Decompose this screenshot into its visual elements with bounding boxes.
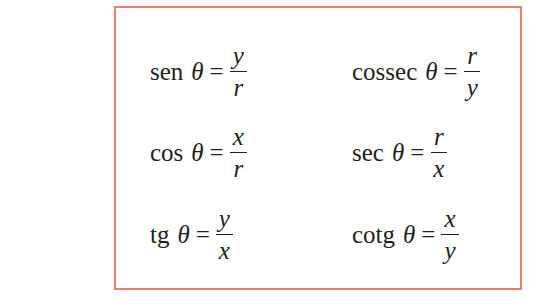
numerator: r bbox=[431, 124, 447, 153]
equals-sign: = bbox=[410, 140, 424, 165]
numerator: x bbox=[230, 124, 247, 153]
denominator: y bbox=[464, 72, 481, 100]
formula-cossec: cossec θ = r y bbox=[352, 43, 481, 100]
function-name: cos bbox=[150, 140, 183, 165]
function-name: tg bbox=[150, 222, 169, 247]
equals-sign: = bbox=[210, 59, 224, 84]
theta-symbol: θ bbox=[425, 59, 437, 84]
formula-sec: sec θ = r x bbox=[352, 124, 447, 181]
formula-cos: cos θ = x r bbox=[150, 124, 247, 181]
equals-sign: = bbox=[421, 222, 435, 247]
fraction: r x bbox=[430, 124, 447, 181]
theta-symbol: θ bbox=[392, 140, 404, 165]
numerator: r bbox=[464, 43, 480, 72]
function-name: cossec bbox=[352, 59, 417, 84]
denominator: y bbox=[441, 235, 458, 263]
function-name: sen bbox=[150, 59, 183, 84]
denominator: r bbox=[230, 72, 246, 100]
fraction: x r bbox=[230, 124, 247, 181]
numerator: y bbox=[216, 206, 233, 235]
theta-symbol: θ bbox=[403, 222, 415, 247]
theta-symbol: θ bbox=[191, 59, 203, 84]
function-name: sec bbox=[352, 140, 384, 165]
numerator: y bbox=[230, 43, 247, 72]
equals-sign: = bbox=[444, 59, 458, 84]
fraction: x y bbox=[441, 206, 458, 263]
denominator: x bbox=[216, 235, 233, 263]
equals-sign: = bbox=[196, 222, 210, 247]
formula-sen: sen θ = y r bbox=[150, 43, 247, 100]
fraction: y x bbox=[216, 206, 233, 263]
numerator: x bbox=[441, 206, 458, 235]
function-name: cotg bbox=[352, 222, 395, 247]
formula-cotg: cotg θ = x y bbox=[352, 206, 459, 263]
formula-tg: tg θ = y x bbox=[150, 206, 233, 263]
denominator: r bbox=[230, 153, 246, 181]
denominator: x bbox=[430, 153, 447, 181]
theta-symbol: θ bbox=[177, 222, 189, 247]
equals-sign: = bbox=[210, 140, 224, 165]
fraction: r y bbox=[464, 43, 481, 100]
theta-symbol: θ bbox=[191, 140, 203, 165]
fraction: y r bbox=[230, 43, 247, 100]
